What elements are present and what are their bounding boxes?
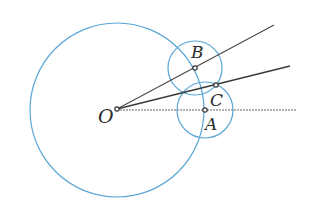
label-C: C (210, 92, 223, 109)
label-A: A (205, 116, 217, 133)
point-O (115, 107, 119, 111)
point-C (214, 83, 218, 87)
point-B (193, 66, 197, 70)
label-B: B (191, 44, 204, 61)
label-O: O (98, 107, 114, 126)
point-A (203, 108, 207, 112)
geometry-diagram (0, 0, 319, 218)
